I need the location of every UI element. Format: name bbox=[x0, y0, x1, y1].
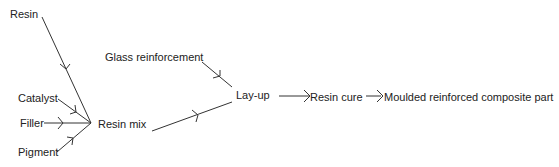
edge-resin-to-resin-mix bbox=[42, 17, 91, 123]
node-pigment: Pigment bbox=[18, 146, 58, 159]
node-catalyst: Catalyst bbox=[18, 92, 58, 105]
node-resin-mix: Resin mix bbox=[98, 118, 146, 131]
node-moulded-part: Moulded reinforced composite part bbox=[384, 91, 553, 104]
node-filler: Filler bbox=[20, 117, 44, 130]
node-lay-up: Lay-up bbox=[236, 89, 270, 102]
node-resin: Resin bbox=[10, 8, 38, 21]
flow-diagram-lines bbox=[0, 0, 559, 167]
node-resin-cure: Resin cure bbox=[310, 91, 363, 104]
edge-pigment-to-resin-mix bbox=[57, 123, 91, 152]
edge-resin-mix-to-lay-up bbox=[152, 102, 232, 131]
edge-catalyst-to-resin-mix bbox=[58, 99, 91, 123]
edge-glass-to-lay-up bbox=[202, 62, 232, 87]
node-glass-reinforcement: Glass reinforcement bbox=[105, 51, 203, 64]
